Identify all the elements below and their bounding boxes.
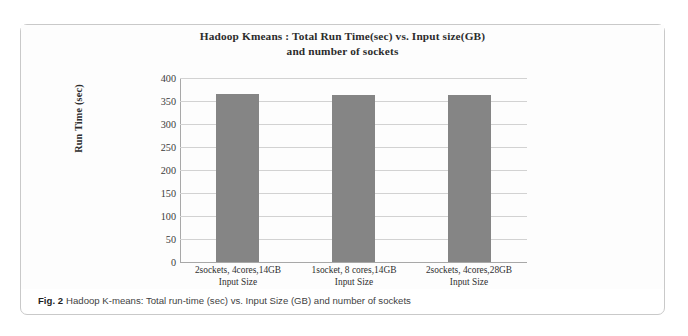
y-tick-label-250: 250 bbox=[161, 142, 176, 153]
y-axis-tick-labels: 050100150200250300350400 bbox=[140, 78, 176, 262]
figure-caption-text: Hadoop K-means: Total run-time (sec) vs.… bbox=[66, 295, 411, 306]
x-tick-label-1-config: 2sockets, 4cores,14GB bbox=[195, 265, 281, 275]
gridline-0 bbox=[180, 262, 527, 263]
x-tick-label-3-sublabel: Input Size bbox=[401, 277, 537, 289]
figure-caption: Fig. 2Hadoop K-means: Total run-time (se… bbox=[38, 294, 658, 307]
chart-title: Hadoop Kmeans : Total Run Time(sec) vs. … bbox=[21, 29, 664, 59]
y-tick-label-200: 200 bbox=[161, 165, 176, 176]
x-tick-label-3: 2sockets, 4cores,28GBInput Size bbox=[401, 265, 537, 288]
figure-root: Hadoop Kmeans : Total Run Time(sec) vs. … bbox=[0, 0, 688, 336]
bar-1 bbox=[216, 94, 259, 262]
figure-caption-tag: Fig. 2 bbox=[38, 295, 63, 306]
y-tick-label-50: 50 bbox=[166, 234, 176, 245]
chart-title-line-2: and number of sockets bbox=[21, 44, 664, 59]
x-axis-tick-labels: 2sockets, 4cores,14GBInput Size1socket, … bbox=[180, 265, 527, 289]
gridline-400 bbox=[180, 78, 527, 79]
chart-title-line-1: Hadoop Kmeans : Total Run Time(sec) vs. … bbox=[21, 29, 664, 44]
y-tick-label-300: 300 bbox=[161, 119, 176, 130]
bar-2 bbox=[332, 95, 375, 262]
y-tick-label-100: 100 bbox=[161, 211, 176, 222]
y-axis-title: Run Time (sec) bbox=[73, 29, 84, 209]
x-tick-label-2-config: 1socket, 8 cores,14GB bbox=[312, 265, 397, 275]
bar-3 bbox=[448, 95, 491, 262]
chart-plate: Hadoop Kmeans : Total Run Time(sec) vs. … bbox=[21, 25, 664, 289]
y-tick-label-400: 400 bbox=[161, 73, 176, 84]
y-tick-label-150: 150 bbox=[161, 188, 176, 199]
plot-area bbox=[180, 78, 527, 262]
y-tick-label-350: 350 bbox=[161, 96, 176, 107]
x-tick-label-3-config: 2sockets, 4cores,28GB bbox=[426, 265, 512, 275]
